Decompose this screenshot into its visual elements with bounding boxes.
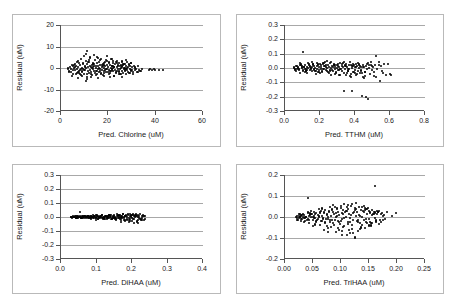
data-point <box>322 218 324 220</box>
data-point <box>344 68 346 70</box>
data-point <box>96 70 98 72</box>
data-point <box>96 73 98 75</box>
data-point <box>301 65 303 67</box>
data-point <box>361 72 363 74</box>
data-point <box>344 65 346 67</box>
data-point <box>116 60 118 62</box>
data-point <box>342 226 344 228</box>
data-point <box>362 210 364 212</box>
data-point <box>310 210 312 212</box>
y-tick-label: 0.0 <box>242 213 278 220</box>
y-tick-label: -10 <box>18 86 54 93</box>
data-point <box>94 59 96 61</box>
data-point <box>121 61 123 63</box>
data-point <box>374 185 376 187</box>
data-point <box>353 211 355 213</box>
data-point <box>89 56 91 58</box>
data-point <box>346 210 348 212</box>
data-point <box>108 62 110 64</box>
x-tick-mark <box>155 111 156 115</box>
data-point <box>371 222 373 224</box>
data-point <box>315 73 317 75</box>
y-tick-mark <box>56 245 60 246</box>
data-point <box>302 213 304 215</box>
y-tick-mark <box>280 238 284 239</box>
data-point <box>372 66 374 68</box>
data-point <box>118 215 120 217</box>
data-point <box>140 70 142 72</box>
x-tick-mark <box>96 259 97 263</box>
x-tick-label: 0.3 <box>150 265 184 272</box>
x-tick-mark <box>131 259 132 263</box>
data-point <box>96 62 98 64</box>
data-point <box>380 213 382 215</box>
data-point <box>77 66 79 68</box>
data-point <box>340 220 342 222</box>
y-tick-mark <box>56 47 60 48</box>
x-tick-label: 0.0 <box>43 265 77 272</box>
data-point <box>322 63 324 65</box>
data-point <box>354 236 356 238</box>
data-point <box>89 65 91 67</box>
x-tick-mark <box>389 111 390 115</box>
data-point <box>361 206 363 208</box>
y-tick-label: -0.3 <box>18 255 54 262</box>
y-tick-label: 0.1 <box>242 50 278 57</box>
data-point <box>137 65 139 67</box>
data-point <box>328 211 330 213</box>
data-point <box>112 60 114 62</box>
data-point <box>323 212 325 214</box>
y-tick-mark <box>56 231 60 232</box>
y-tick-label: 0.2 <box>242 35 278 42</box>
data-point <box>305 70 307 72</box>
data-point <box>122 72 124 74</box>
data-point <box>350 76 352 78</box>
data-point <box>107 66 109 68</box>
y-tick-mark <box>280 25 284 26</box>
y-tick-label: 20 <box>18 21 54 28</box>
data-point <box>331 208 333 210</box>
data-point <box>129 213 131 215</box>
x-tick-label: 0.4 <box>185 265 219 272</box>
data-point <box>80 58 82 60</box>
y-tick-mark <box>280 68 284 69</box>
data-point <box>132 71 134 73</box>
data-point <box>137 71 139 73</box>
y-tick-mark <box>280 175 284 176</box>
y-tick-mark <box>56 25 60 26</box>
y-tick-mark <box>56 68 60 69</box>
data-point <box>306 72 308 74</box>
y-tick-label: 0.3 <box>242 21 278 28</box>
x-tick-label: 20 <box>90 117 124 124</box>
data-point <box>84 66 86 68</box>
data-point <box>311 61 313 63</box>
data-point <box>307 197 309 199</box>
data-point <box>363 77 365 79</box>
data-point <box>86 73 88 75</box>
data-point <box>129 218 131 220</box>
data-point <box>391 215 393 217</box>
data-point <box>390 74 392 76</box>
x-tick-mark <box>312 259 313 263</box>
x-tick-label: 60 <box>185 117 219 124</box>
data-point <box>369 211 371 213</box>
data-point <box>351 90 353 92</box>
data-point <box>103 75 105 77</box>
data-point <box>97 77 99 79</box>
data-point <box>106 218 108 220</box>
data-point <box>349 61 351 63</box>
data-point <box>98 67 100 69</box>
data-point <box>374 211 376 213</box>
data-point <box>111 218 113 220</box>
x-tick-mark <box>107 111 108 115</box>
data-point <box>95 74 97 76</box>
data-point <box>361 95 363 97</box>
data-point <box>338 214 340 216</box>
data-point <box>120 221 122 223</box>
data-point <box>309 212 311 214</box>
data-point <box>338 229 340 231</box>
data-point <box>368 67 370 69</box>
data-point <box>343 203 345 205</box>
data-point <box>154 69 156 71</box>
data-point <box>90 218 92 220</box>
